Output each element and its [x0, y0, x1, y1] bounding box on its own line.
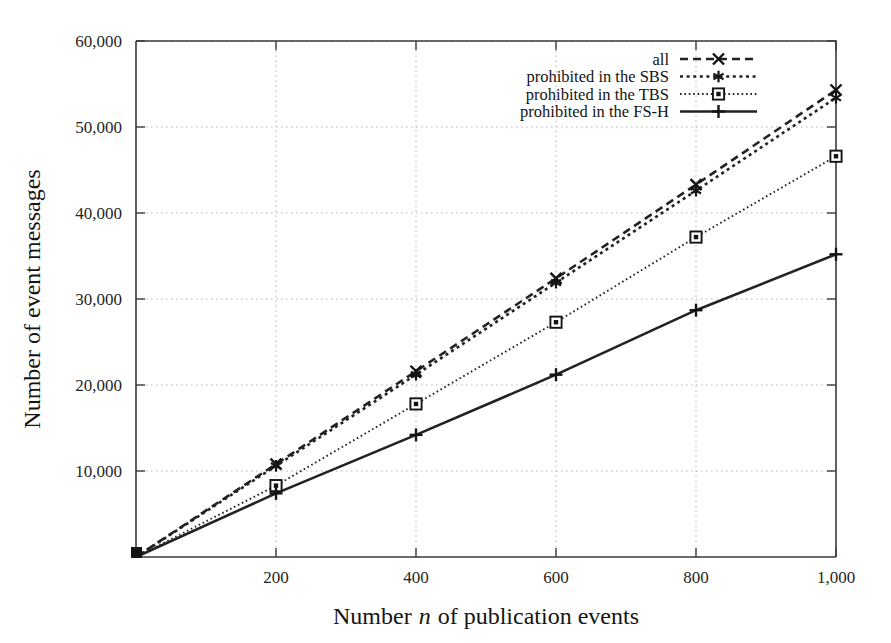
data-marker-open-square	[830, 151, 841, 162]
legend-label: prohibited in the FS-H	[520, 102, 669, 121]
chart-figure: 10,00020,00030,00040,00050,00060,000 200…	[0, 0, 891, 643]
origin-marker-cluster	[131, 547, 142, 558]
y-tick-label: 40,000	[75, 204, 122, 223]
y-tick-label: 20,000	[75, 376, 122, 395]
x-tick-label: 800	[683, 568, 709, 587]
data-marker-open-square	[690, 231, 701, 242]
y-tick-label: 50,000	[75, 118, 122, 137]
line-chart: 10,00020,00030,00040,00050,00060,000 200…	[0, 0, 891, 643]
legend-label: prohibited in the SBS	[526, 67, 669, 86]
data-marker-open-square	[713, 88, 724, 99]
x-tick-label: 400	[403, 568, 429, 587]
y-tick-label: 60,000	[75, 32, 122, 51]
x-tick-label: 200	[263, 568, 289, 587]
data-marker-open-square	[410, 398, 421, 409]
chart-background	[0, 0, 891, 643]
y-axis-title: Number of event messages	[19, 169, 45, 428]
x-tick-label: 600	[543, 568, 569, 587]
x-axis-title: Numbernof publication events	[333, 603, 639, 629]
legend-label: all	[653, 50, 670, 69]
data-marker-open-square	[550, 317, 561, 328]
legend-label: prohibited in the TBS	[526, 85, 669, 104]
y-tick-label: 30,000	[75, 290, 122, 309]
x-tick-label: 1,000	[817, 568, 855, 587]
y-tick-label: 10,000	[75, 462, 122, 481]
